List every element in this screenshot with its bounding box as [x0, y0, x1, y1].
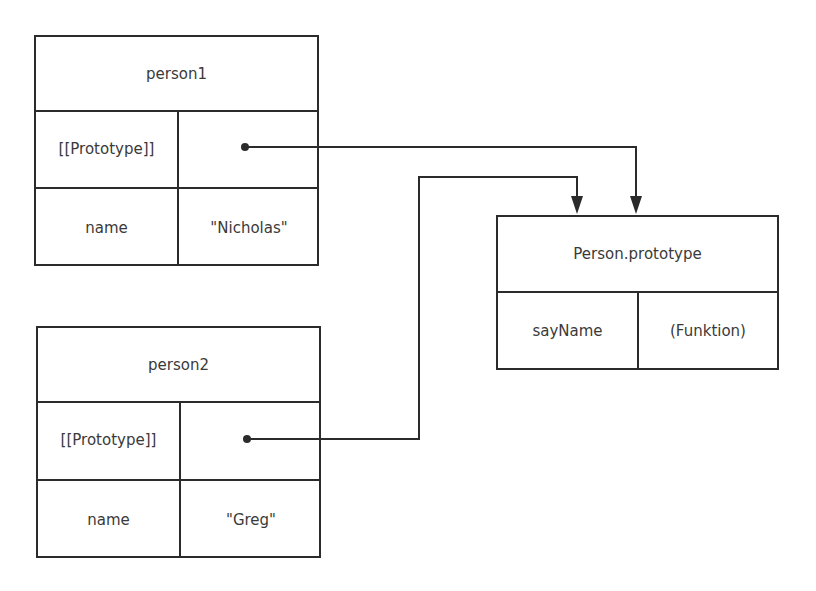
arrowhead-icon	[630, 196, 642, 214]
person2-prototype-link	[247, 177, 577, 439]
prototype-links	[0, 0, 816, 591]
pointer-dot-icon	[241, 143, 249, 151]
arrowhead-icon	[571, 196, 583, 214]
pointer-dot-icon	[243, 435, 251, 443]
